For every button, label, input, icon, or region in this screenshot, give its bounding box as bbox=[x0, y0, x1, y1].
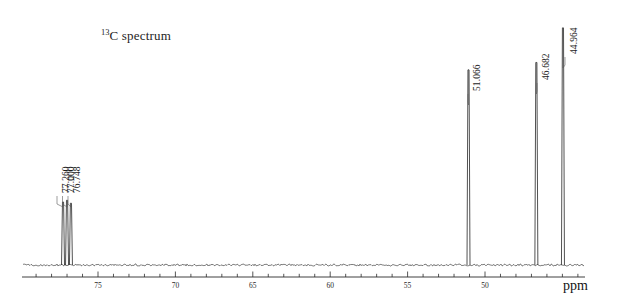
baseline-noise-trace bbox=[23, 264, 584, 266]
axis-tick-label: 70 bbox=[172, 281, 180, 290]
axis-tick-label: 60 bbox=[326, 281, 334, 290]
axis-unit-label: ppm bbox=[563, 278, 588, 294]
axis-tick-label: 50 bbox=[481, 281, 489, 290]
peak-label: 51.066 bbox=[472, 64, 482, 91]
axis-tick-label: 55 bbox=[404, 281, 412, 290]
x-axis bbox=[22, 272, 585, 278]
peak-label: 44.964 bbox=[569, 27, 579, 54]
spectrum-plot-area bbox=[0, 0, 618, 303]
axis-tick-label: 75 bbox=[94, 281, 102, 290]
peak-traces bbox=[62, 28, 565, 265]
spectrum-canvas bbox=[0, 0, 618, 303]
nmr-spectrum-figure: 13C spectrum 77.26077.00076.74851.06646.… bbox=[0, 0, 618, 303]
peak-label: 46.682 bbox=[541, 53, 551, 80]
peak-leader-lines bbox=[57, 28, 565, 207]
peak-label: 76.748 bbox=[72, 166, 82, 193]
axis-tick-label: 65 bbox=[249, 281, 257, 290]
